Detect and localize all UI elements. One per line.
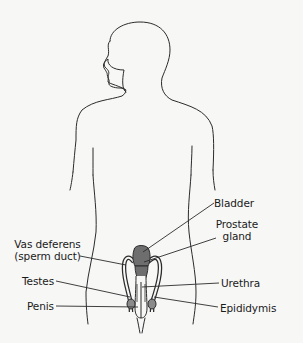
- label-bladder: Bladder: [214, 197, 254, 209]
- label-prostate-line1: Prostate: [212, 218, 262, 230]
- label-epididymis: Epididymis: [220, 302, 276, 314]
- label-urethra: Urethra: [221, 277, 260, 289]
- label-prostate-gland: Prostate gland: [212, 218, 262, 242]
- label-vas-deferens: Vas deferens (sperm duct): [10, 238, 85, 262]
- testis-right: [148, 299, 156, 309]
- leader-prostate: [144, 238, 216, 262]
- label-testes: Testes: [22, 275, 54, 287]
- leader-bladder: [143, 203, 214, 252]
- label-vas-line2: (sperm duct): [10, 250, 85, 262]
- leader-urethra: [142, 283, 219, 287]
- body-illustration: [0, 0, 303, 343]
- leader-vas: [80, 256, 126, 265]
- leader-testes: [56, 281, 130, 297]
- label-penis: Penis: [27, 300, 54, 312]
- label-vas-line1: Vas deferens: [10, 238, 85, 250]
- leader-epididymis: [154, 297, 218, 307]
- leader-penis: [56, 306, 138, 307]
- reproductive-system-diagram: Bladder Prostate gland Vas deferens (spe…: [0, 0, 303, 343]
- testis-left: [127, 299, 135, 309]
- label-prostate-line2: gland: [212, 230, 262, 242]
